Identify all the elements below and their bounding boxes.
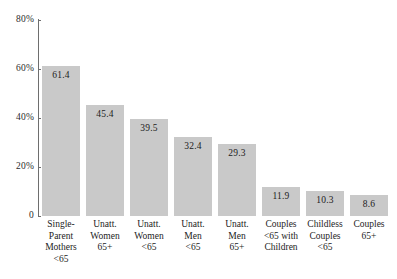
x-axis-category-label-line: Childless (303, 219, 347, 231)
y-axis-tick-label: 20% (2, 162, 34, 172)
x-axis-category-label-line: Unatt. (83, 219, 127, 231)
bar-value-label: 29.3 (218, 148, 256, 158)
y-axis-tick-label: 80% (2, 15, 34, 25)
bar[interactable]: 29.3 (218, 144, 256, 216)
x-axis-category-label-line: <65 with (259, 231, 303, 243)
y-axis-tick-label: 0 (2, 211, 34, 221)
x-axis-category-label-line: Mothers (39, 242, 83, 254)
bar-value-label: 8.6 (350, 199, 388, 209)
x-axis-category-label-line: Men (171, 231, 215, 243)
x-axis-category-label-line: Parent (39, 231, 83, 243)
x-axis-category-label-line: <65 (303, 242, 347, 254)
bar-slot: 29.3 (215, 20, 259, 216)
x-axis-category-label-line: Children (259, 242, 303, 254)
bar-value-label: 61.4 (42, 70, 80, 80)
bar-slot: 32.4 (171, 20, 215, 216)
x-axis-category-label: ChildlessCouples<65 (303, 219, 347, 254)
x-axis-category-label: Couples<65 withChildren (259, 219, 303, 254)
bar[interactable]: 10.3 (306, 191, 344, 216)
x-axis-category-label-line: 65+ (347, 231, 391, 243)
x-axis-category-label: Unatt.Women<65 (127, 219, 171, 254)
x-axis-category-label-line: Unatt. (127, 219, 171, 231)
x-axis-category-label-line: Women (83, 231, 127, 243)
x-axis-category-label-line: Unatt. (215, 219, 259, 231)
bar-value-label: 45.4 (86, 109, 124, 119)
bar-slot: 61.4 (39, 20, 83, 216)
x-axis-category-label-line: Single- (39, 219, 83, 231)
x-axis-category-label-line: 65+ (215, 242, 259, 254)
x-axis-category-label-line: <65 (171, 242, 215, 254)
bar[interactable]: 61.4 (42, 66, 80, 216)
bar[interactable]: 8.6 (350, 195, 388, 216)
x-axis-category-label-line: Women (127, 231, 171, 243)
x-axis-category-label: Unatt.Men<65 (171, 219, 215, 254)
bar-slot: 39.5 (127, 20, 171, 216)
bar-slot: 8.6 (347, 20, 391, 216)
x-axis-category-label: Single-ParentMothers<65 (39, 219, 83, 265)
bar-slot: 10.3 (303, 20, 347, 216)
x-axis-category-label-line: Couples (347, 219, 391, 231)
bar-chart: 020%40%60%80% 61.445.439.532.429.311.910… (0, 0, 397, 279)
x-axis-category-label: Unatt.Women65+ (83, 219, 127, 254)
x-axis-category-label-line: Couples (259, 219, 303, 231)
bar-slot: 11.9 (259, 20, 303, 216)
bar[interactable]: 11.9 (262, 187, 300, 216)
y-axis-tick-label: 40% (2, 113, 34, 123)
x-axis-category-label-line: 65+ (83, 242, 127, 254)
x-axis-category-labels: Single-ParentMothers<65Unatt.Women65+Una… (39, 219, 391, 277)
bar-value-label: 10.3 (306, 195, 344, 205)
x-axis-category-label-line: <65 (127, 242, 171, 254)
x-axis-category-label-line: Couples (303, 231, 347, 243)
bar[interactable]: 39.5 (130, 119, 168, 216)
y-axis-tick (38, 216, 41, 217)
y-axis-tick-label: 60% (2, 64, 34, 74)
x-axis-category-label-line: Men (215, 231, 259, 243)
x-axis-category-label-line: <65 (39, 254, 83, 266)
bar-value-label: 11.9 (262, 191, 300, 201)
bar[interactable]: 32.4 (174, 137, 212, 216)
x-axis-category-label-line: Unatt. (171, 219, 215, 231)
x-axis-category-label: Unatt.Men65+ (215, 219, 259, 254)
x-axis-category-label: Couples65+ (347, 219, 391, 242)
bar-slot: 45.4 (83, 20, 127, 216)
bar-value-label: 39.5 (130, 123, 168, 133)
bar-value-label: 32.4 (174, 141, 212, 151)
bar-series: 61.445.439.532.429.311.910.38.6 (39, 20, 391, 216)
bar[interactable]: 45.4 (86, 105, 124, 216)
